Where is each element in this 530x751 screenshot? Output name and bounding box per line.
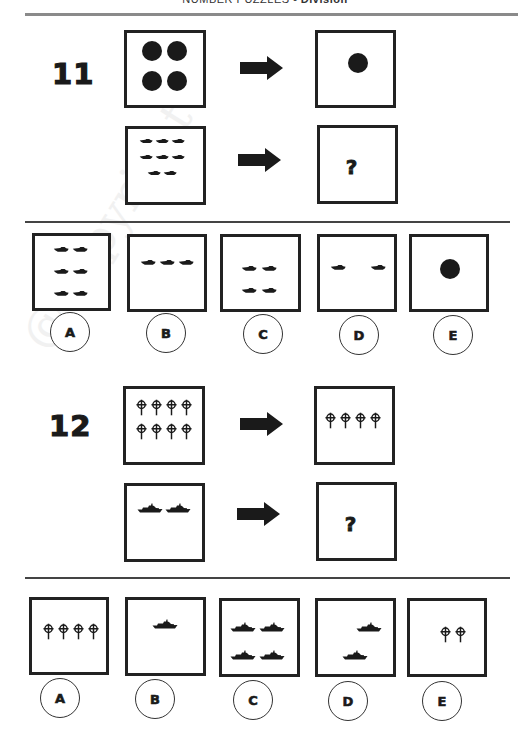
option-b-label[interactable]: B <box>146 313 186 353</box>
tank-icon-group <box>128 129 203 202</box>
puzzle-11-example-output <box>315 30 396 108</box>
option-letter: D <box>354 328 365 343</box>
right-arrow-icon <box>240 56 283 80</box>
puzzle-12-option-b-box[interactable] <box>125 597 206 676</box>
option-letter: E <box>438 694 447 709</box>
page-header: NUMBER PUZZLES - Division <box>0 0 530 5</box>
puzzle-11-option-b-box[interactable] <box>127 234 207 312</box>
option-letter: C <box>248 693 258 708</box>
option-letter: A <box>65 325 75 340</box>
header-title-emphasis: Division <box>301 0 348 5</box>
option-c-label[interactable]: C <box>243 314 283 354</box>
crosshair-pin-icon-group <box>317 389 392 462</box>
puzzle-number-11: 11 <box>52 57 94 91</box>
crosshair-pin-icon-group <box>410 601 484 674</box>
option-letter: E <box>449 328 458 343</box>
question-mark: ? <box>346 155 358 179</box>
section-divider <box>25 221 510 223</box>
crosshair-pin-icon-group <box>126 389 202 462</box>
warship-icon-group <box>222 601 297 674</box>
puzzle-12-option-d-box[interactable] <box>315 598 396 677</box>
option-letter: C <box>258 327 268 342</box>
puzzle-12-example-input <box>123 386 205 465</box>
option-letter: D <box>343 694 354 709</box>
header-rule <box>25 13 518 16</box>
puzzle-11-answer-slot: ? <box>317 125 398 204</box>
puzzle-12-option-a-box[interactable] <box>29 597 109 675</box>
puzzle-11-option-a-box[interactable] <box>32 233 111 311</box>
puzzle-12-example-output <box>314 386 395 465</box>
question-mark: ? <box>345 512 357 536</box>
puzzle-11-option-d-box[interactable] <box>317 234 397 312</box>
puzzle-11-option-c-box[interactable] <box>220 234 301 312</box>
option-letter: A <box>55 691 65 706</box>
dot-icon-group <box>127 33 203 105</box>
option-a-label[interactable]: A <box>50 312 90 352</box>
right-arrow-icon <box>240 412 283 436</box>
option-c-label[interactable]: C <box>233 680 273 720</box>
puzzle-12-option-e-box[interactable] <box>407 598 487 677</box>
tank-icon-group <box>223 237 298 309</box>
puzzle-11-example-input <box>124 30 206 108</box>
warship-icon-group <box>127 486 202 559</box>
puzzle-12-answer-slot: ? <box>316 482 397 561</box>
dot-icon <box>412 237 486 309</box>
option-e-label[interactable]: E <box>422 681 462 721</box>
tank-icon-group <box>320 237 394 309</box>
warship-icon <box>128 600 203 673</box>
dot-icon <box>318 33 393 105</box>
tank-icon-group <box>130 237 204 309</box>
puzzle-11-question-input <box>125 126 206 205</box>
puzzle-11-option-e-box[interactable] <box>409 234 489 312</box>
right-arrow-icon <box>237 502 280 526</box>
option-a-label[interactable]: A <box>40 678 80 718</box>
option-d-label[interactable]: D <box>339 315 379 355</box>
option-letter: B <box>150 692 160 707</box>
right-arrow-icon <box>238 148 281 172</box>
puzzle-12-question-input <box>124 483 205 562</box>
header-title-prefix: NUMBER PUZZLES - <box>182 0 301 5</box>
option-b-label[interactable]: B <box>135 679 175 719</box>
option-d-label[interactable]: D <box>328 681 368 721</box>
puzzle-12-option-c-box[interactable] <box>219 598 300 677</box>
option-letter: B <box>161 326 171 341</box>
option-e-label[interactable]: E <box>433 315 473 355</box>
section-divider <box>25 577 510 579</box>
tank-icon-group <box>35 236 108 308</box>
warship-icon-group <box>318 601 393 674</box>
crosshair-pin-icon-group <box>32 600 106 672</box>
puzzle-number-12: 12 <box>49 409 91 443</box>
